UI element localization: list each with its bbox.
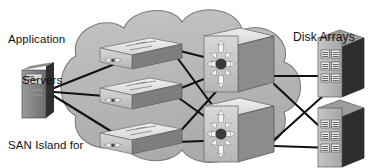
label-san-island: SAN Island for Department #1 <box>8 112 85 168</box>
label-san-island-line1: SAN Island for <box>8 139 85 153</box>
director-switch-1[interactable] <box>204 28 274 92</box>
label-application-servers-line2: Servers <box>22 74 65 88</box>
label-application-servers: Application Servers <box>8 6 65 114</box>
director-switch-2[interactable] <box>204 98 274 162</box>
disk-array-2[interactable] <box>318 100 364 167</box>
label-disk-arrays-line1: Disk Arrays <box>293 31 355 45</box>
label-disk-arrays: Disk Arrays <box>293 4 355 72</box>
label-application-servers-line1: Application <box>8 33 65 47</box>
diagram-canvas: Application Servers SAN Island for Depar… <box>0 0 370 168</box>
